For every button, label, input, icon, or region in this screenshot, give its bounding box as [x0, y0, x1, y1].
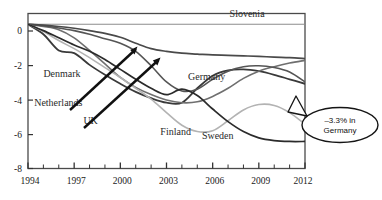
callout-line-1: –3.3% in [324, 116, 355, 125]
y-tick-marks [28, 31, 33, 169]
x-tick-label-2012: 2012 [294, 176, 313, 186]
callout-germany: –3.3% in Germany [288, 96, 378, 143]
y-tick-label-4: -8 [14, 164, 22, 174]
callout-line-2: Germany [324, 126, 357, 135]
series-lines [28, 24, 305, 141]
x-axis-ticks [28, 163, 305, 169]
x-axis-labels: 1994 1997 2000 2003 2006 2009 2012 [21, 176, 313, 186]
y-tick-label-3: -6 [14, 130, 22, 140]
series-label-finland: Finland [160, 126, 191, 137]
series-label-slovenia: Slovenia [230, 8, 266, 19]
x-tick-label-1994: 1994 [21, 176, 40, 186]
series-line-denmark [28, 24, 305, 104]
series-line-netherlands [28, 24, 305, 103]
y-tick-label-1: -2 [14, 61, 22, 71]
line-chart: 0 -2 -4 -6 -8 1994 1997 2000 2003 2006 2… [0, 0, 382, 200]
y-axis: 0 -2 -4 -6 -8 [14, 26, 33, 174]
x-tick-label-1997: 1997 [67, 176, 86, 186]
series-label-germany: Germany [188, 71, 225, 82]
x-tick-label-2006: 2006 [205, 176, 224, 186]
chart-screenshot: 0 -2 -4 -6 -8 1994 1997 2000 2003 2006 2… [0, 0, 382, 200]
x-tick-label-2003: 2003 [159, 176, 178, 186]
series-label-denmark: Denmark [43, 68, 80, 79]
plot-frame [28, 14, 305, 169]
y-tick-label-2: -4 [14, 96, 22, 106]
series-label-sweden: Sweden [202, 130, 234, 141]
y-tick-label-0: 0 [17, 26, 22, 36]
x-tick-label-2000: 2000 [113, 176, 132, 186]
x-tick-label-2009: 2009 [251, 176, 270, 186]
